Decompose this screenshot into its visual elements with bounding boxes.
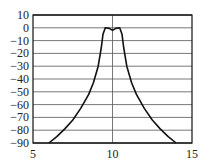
- x-tick-label: 5: [30, 147, 36, 161]
- x-tick-label: 15: [186, 147, 198, 161]
- chart: 100−10−20−30−40−50−60−70−80−9051015: [0, 0, 209, 163]
- y-tick-label: −90: [10, 136, 29, 150]
- x-tick-label: 10: [107, 147, 119, 161]
